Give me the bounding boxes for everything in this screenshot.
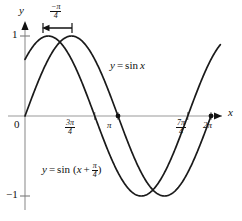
label-eq: = [49,163,55,175]
x-tick-label-7pi-over-4: 7π 4 [176,119,186,136]
sine-shift-figure: y x 0 1 −1 3π 4 π 7π 4 2π −π 4 y=sinx y=… [0,0,242,221]
y-axis-arrowhead [21,21,28,30]
marker-point-0 [116,114,121,119]
x-tick-label-2pi: 2π [203,121,212,130]
fraction-neg-pi-4: −π 4 [50,3,61,20]
y-axis-label: y [19,5,24,16]
origin-label: 0 [14,119,20,130]
x-tick-label-pi: π [107,121,112,130]
fraction-denominator: 4 [65,128,75,136]
shift-annotation-label: −π 4 [50,3,61,20]
y-tick-label-1: 1 [12,29,18,40]
label-eq: = [117,59,123,71]
shift-arrow-group [42,23,72,33]
curve-label-sin-x: y=sinx [110,60,145,71]
label-arg: x [77,163,82,175]
x-axis-label: x [228,107,233,118]
plot-canvas [0,0,242,221]
x-tick-label-3pi-over-4: 3π 4 [65,119,75,136]
curve-label-sin-x-plus-pi-over-4: y=sin(x+ π 4 ) [42,162,101,179]
x-axis-arrowhead [214,112,222,119]
label-arg: x [140,59,145,71]
label-plus: + [84,163,90,175]
label-sin: sin [125,59,138,71]
marker-point-1 [209,114,214,119]
label-close-paren: ) [98,163,102,175]
label-lhs: y [110,59,115,71]
label-lhs: y [42,163,47,175]
fraction-denominator: 4 [176,128,186,136]
fraction-denominator: 4 [50,12,61,20]
fraction-3pi-4: 3π 4 [65,119,75,136]
y-tick-label-neg1: −1 [6,189,18,200]
fraction-7pi-4: 7π 4 [176,119,186,136]
label-sin: sin [57,163,70,175]
